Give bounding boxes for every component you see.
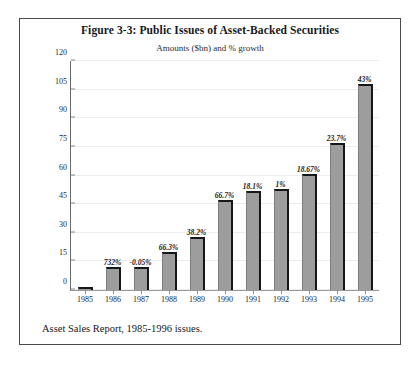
bar[interactable]: 18.67% bbox=[302, 174, 317, 290]
bar-slot: 1%1992 bbox=[267, 61, 295, 290]
bar[interactable]: -0.05% bbox=[134, 267, 149, 290]
x-tick-label: 1989 bbox=[189, 295, 205, 304]
y-tick-label: 60 bbox=[59, 162, 67, 171]
x-tick-mark bbox=[141, 290, 142, 294]
x-tick-label: 1985 bbox=[77, 295, 93, 304]
x-tick-label: 1991 bbox=[245, 295, 261, 304]
bar-slot: 732%1986 bbox=[99, 61, 127, 290]
bar-value-label: 18.67% bbox=[297, 165, 320, 174]
bar-slot: 66.7%1990 bbox=[211, 61, 239, 290]
bar-value-label: 38.2% bbox=[187, 228, 206, 237]
bar-value-label: 43% bbox=[358, 75, 372, 84]
x-tick-label: 1992 bbox=[273, 295, 289, 304]
bar[interactable]: 43% bbox=[358, 84, 373, 290]
bar-slot: 1985 bbox=[71, 61, 99, 290]
y-tick-label: 105 bbox=[55, 76, 67, 85]
bar-slot: 18.1%1991 bbox=[239, 61, 267, 290]
bar-value-label: 1% bbox=[276, 180, 286, 189]
x-tick-mark bbox=[309, 290, 310, 294]
x-tick-mark bbox=[253, 290, 254, 294]
bar-slot: 43%1995 bbox=[351, 61, 379, 290]
x-tick-mark bbox=[337, 290, 338, 294]
x-tick-mark bbox=[85, 290, 86, 294]
x-tick-mark bbox=[281, 290, 282, 294]
bar[interactable]: 66.7% bbox=[218, 200, 233, 290]
y-tick-label: 90 bbox=[59, 105, 67, 114]
bar-value-label: 66.7% bbox=[215, 191, 234, 200]
bar[interactable]: 38.2% bbox=[190, 237, 205, 290]
bar-slot: -0.05%1987 bbox=[127, 61, 155, 290]
x-tick-label: 1995 bbox=[357, 295, 373, 304]
x-tick-label: 1993 bbox=[301, 295, 317, 304]
bar-value-label: 18.1% bbox=[243, 182, 262, 191]
x-tick-mark bbox=[225, 290, 226, 294]
figure-title: Figure 3-3: Public Issues of Asset-Backe… bbox=[20, 24, 400, 36]
x-tick-label: 1986 bbox=[105, 295, 121, 304]
x-tick-label: 1988 bbox=[161, 295, 177, 304]
figure-frame: Figure 3-3: Public Issues of Asset-Backe… bbox=[19, 18, 401, 345]
bar-series: 1985732%1986-0.05%198766.3%198838.2%1989… bbox=[71, 61, 379, 290]
y-tick-label: 0 bbox=[63, 277, 67, 286]
x-tick-mark bbox=[365, 290, 366, 294]
bar[interactable]: 23.7% bbox=[330, 143, 345, 290]
figure-subtitle: Amounts ($bn) and % growth bbox=[20, 43, 400, 53]
y-tick-label: 15 bbox=[59, 248, 67, 257]
bar-value-label: 23.7% bbox=[327, 134, 346, 143]
x-tick-label: 1994 bbox=[329, 295, 345, 304]
y-tick-label: 30 bbox=[59, 219, 67, 228]
y-tick-label: 45 bbox=[59, 191, 67, 200]
bar-value-label: 732% bbox=[104, 258, 122, 267]
bar[interactable]: 66.3% bbox=[162, 252, 177, 290]
bar[interactable]: 732% bbox=[106, 267, 121, 290]
y-tick-label: 75 bbox=[59, 133, 67, 142]
bar-slot: 18.67%1993 bbox=[295, 61, 323, 290]
x-tick-mark bbox=[197, 290, 198, 294]
bar[interactable]: 1% bbox=[274, 189, 289, 290]
x-tick-mark bbox=[113, 290, 114, 294]
figure-caption: Asset Sales Report, 1985-1996 issues. bbox=[42, 323, 202, 334]
y-tick-label: 120 bbox=[55, 48, 67, 57]
bar-slot: 38.2%1989 bbox=[183, 61, 211, 290]
x-tick-label: 1987 bbox=[133, 295, 149, 304]
chart-plot-area: 0153045607590105120 1985732%1986-0.05%19… bbox=[44, 59, 381, 311]
x-tick-label: 1990 bbox=[217, 295, 233, 304]
chart-axes: 0153045607590105120 1985732%1986-0.05%19… bbox=[70, 61, 379, 291]
bar-value-label: -0.05% bbox=[130, 258, 152, 267]
x-tick-mark bbox=[169, 290, 170, 294]
bar-value-label: 66.3% bbox=[159, 243, 178, 252]
bar[interactable]: 18.1% bbox=[246, 191, 261, 290]
bar-slot: 23.7%1994 bbox=[323, 61, 351, 290]
bar-slot: 66.3%1988 bbox=[155, 61, 183, 290]
